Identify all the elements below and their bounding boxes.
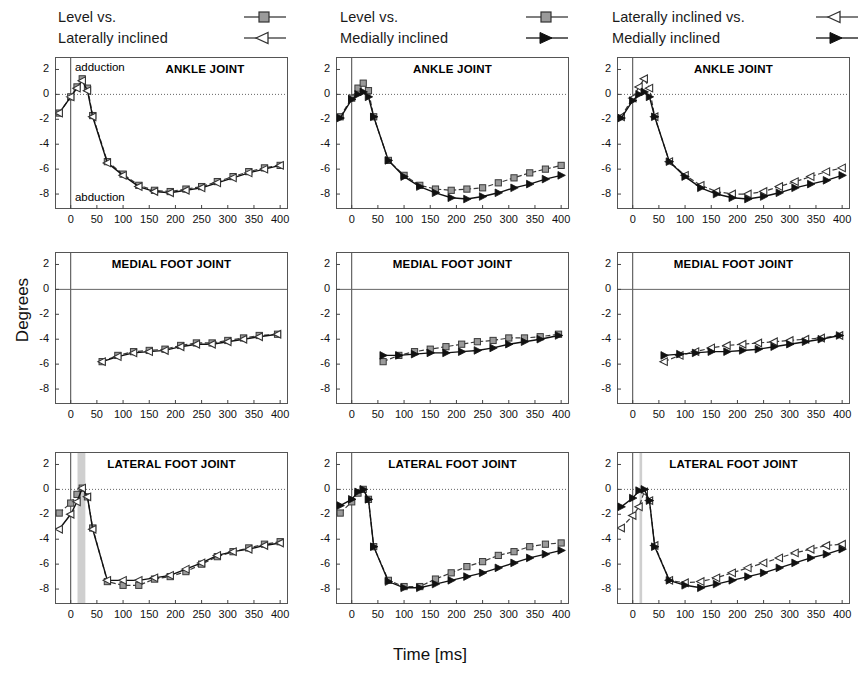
y-tick-label: -4	[591, 532, 611, 544]
y-tick-label: 0	[591, 482, 611, 494]
y-tick-label: -4	[29, 532, 49, 544]
y-tick-label: -2	[310, 307, 330, 319]
y-tick-label: -4	[310, 332, 330, 344]
y-tick-label: 2	[591, 257, 611, 269]
y-tick-label: -2	[310, 112, 330, 124]
chart-panel-panel-r1c3	[617, 57, 850, 209]
y-tick-label: -8	[310, 187, 330, 199]
y-tick-label: -6	[29, 357, 49, 369]
y-tick-label: -8	[591, 582, 611, 594]
chart-panel-panel-r3c1	[55, 452, 288, 604]
y-tick-label: 2	[29, 62, 49, 74]
panel-title: ANKLE JOINT	[166, 63, 245, 75]
y-tick-label: 0	[29, 482, 49, 494]
y-tick-label: -6	[310, 357, 330, 369]
y-tick-label: -8	[29, 382, 49, 394]
y-tick-label: 0	[29, 87, 49, 99]
panel-title: MEDIAL FOOT JOINT	[393, 258, 512, 270]
y-tick-label: -8	[591, 382, 611, 394]
y-tick-label: -4	[591, 332, 611, 344]
chart-panel-panel-r2c2	[336, 252, 569, 404]
x-tick-label: 400	[827, 608, 857, 620]
y-tick-label: 0	[310, 87, 330, 99]
x-tick-label: 400	[546, 608, 576, 620]
open-left-triangle-marker	[800, 6, 860, 27]
filled-right-triangle-marker	[800, 27, 860, 48]
chart-panel-panel-r2c1	[55, 252, 288, 404]
chart-panel-panel-r3c2	[336, 452, 569, 604]
y-tick-label: 2	[29, 257, 49, 269]
panel-title: ANKLE JOINT	[694, 63, 773, 75]
x-tick-label: 400	[265, 608, 295, 620]
chart-panel-panel-r1c1	[55, 57, 288, 209]
x-tick-label: 400	[827, 408, 857, 420]
chart-panel-panel-r1c2	[336, 57, 569, 209]
filled-right-triangle-marker	[510, 27, 570, 48]
y-tick-label: -2	[591, 507, 611, 519]
legend-column-3: Laterally inclined vs. Medially inclined	[612, 6, 860, 48]
filled-square-marker	[510, 6, 570, 27]
y-tick-label: 2	[29, 457, 49, 469]
legend-line-2: Laterally inclined	[58, 30, 168, 46]
panel-title: MEDIAL FOOT JOINT	[674, 258, 793, 270]
panel-title: MEDIAL FOOT JOINT	[112, 258, 231, 270]
y-tick-label: 2	[310, 62, 330, 74]
x-tick-label: 400	[265, 213, 295, 225]
y-tick-label: 0	[310, 282, 330, 294]
y-tick-label: 0	[310, 482, 330, 494]
y-tick-label: -4	[591, 137, 611, 149]
x-tick-label: 400	[827, 213, 857, 225]
y-tick-label: 0	[29, 282, 49, 294]
panel-title: LATERAL FOOT JOINT	[107, 458, 235, 470]
annotation-adduction: adduction	[75, 61, 125, 73]
y-tick-label: -2	[29, 112, 49, 124]
annotation-abduction: abduction	[75, 191, 125, 203]
x-axis-title: Time [ms]	[0, 645, 860, 665]
y-tick-label: 0	[591, 87, 611, 99]
y-tick-label: -2	[310, 507, 330, 519]
legend-line-1: Level vs.	[58, 9, 116, 25]
legend-line-1: Level vs.	[340, 9, 398, 25]
legend-line-1: Laterally inclined vs.	[612, 9, 745, 25]
panel-title: LATERAL FOOT JOINT	[669, 458, 797, 470]
y-tick-label: -8	[29, 582, 49, 594]
y-tick-label: 2	[591, 457, 611, 469]
x-tick-label: 400	[265, 408, 295, 420]
y-tick-label: 2	[310, 457, 330, 469]
legend-line-2: Medially inclined	[340, 30, 448, 46]
y-tick-label: 0	[591, 282, 611, 294]
y-tick-label: -8	[310, 582, 330, 594]
y-tick-label: -8	[310, 382, 330, 394]
x-tick-label: 400	[546, 408, 576, 420]
filled-square-marker	[228, 6, 288, 27]
open-left-triangle-marker	[228, 27, 288, 48]
chart-panel-panel-r2c3	[617, 252, 850, 404]
y-tick-label: -2	[29, 507, 49, 519]
y-tick-label: -6	[29, 162, 49, 174]
y-tick-label: -4	[310, 137, 330, 149]
y-tick-label: -8	[591, 187, 611, 199]
figure-root: Level vs. Laterally inclined Level vs. M…	[0, 0, 860, 673]
panel-title: LATERAL FOOT JOINT	[388, 458, 516, 470]
y-tick-label: -6	[29, 557, 49, 569]
y-tick-label: -6	[310, 162, 330, 174]
panel-title: ANKLE JOINT	[413, 63, 492, 75]
y-tick-label: -6	[310, 557, 330, 569]
legend-column-1: Level vs. Laterally inclined	[58, 6, 288, 48]
y-tick-label: 2	[310, 257, 330, 269]
legend-column-2: Level vs. Medially inclined	[340, 6, 570, 48]
y-tick-label: -6	[591, 162, 611, 174]
chart-panel-panel-r3c3	[617, 452, 850, 604]
y-tick-label: -8	[29, 187, 49, 199]
x-tick-label: 400	[546, 213, 576, 225]
y-tick-label: -2	[29, 307, 49, 319]
y-tick-label: -6	[591, 357, 611, 369]
y-tick-label: -4	[29, 137, 49, 149]
y-tick-label: -4	[29, 332, 49, 344]
y-tick-label: -2	[591, 112, 611, 124]
y-tick-label: 2	[591, 62, 611, 74]
y-tick-label: -2	[591, 307, 611, 319]
y-tick-label: -4	[310, 532, 330, 544]
y-tick-label: -6	[591, 557, 611, 569]
legend-line-2: Medially inclined	[612, 30, 720, 46]
